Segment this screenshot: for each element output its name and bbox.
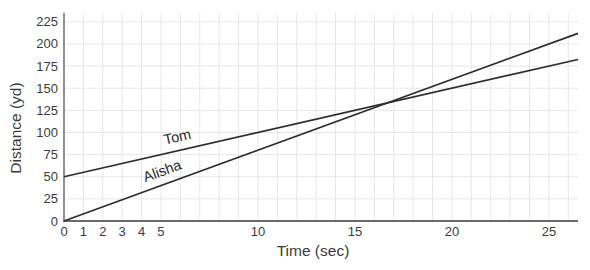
x-tick-label: 4 (138, 224, 145, 239)
chart-canvas: 012345101520250255075100125150175200225 … (0, 0, 590, 270)
tick-labels: 012345101520250255075100125150175200225 (36, 14, 556, 239)
x-tick-label: 3 (119, 224, 126, 239)
y-tick-label: 150 (36, 81, 58, 96)
y-tick-label: 125 (36, 103, 58, 118)
y-tick-label: 25 (44, 191, 58, 206)
x-tick-label: 15 (348, 224, 362, 239)
x-tick-label: 25 (542, 224, 556, 239)
y-tick-label: 225 (36, 14, 58, 29)
x-tick-label: 1 (80, 224, 87, 239)
y-tick-label: 50 (44, 169, 58, 184)
y-tick-label: 175 (36, 59, 58, 74)
y-tick-label: 100 (36, 125, 58, 140)
x-tick-label: 2 (99, 224, 106, 239)
series-label-alisha: Alisha (141, 156, 184, 185)
distance-time-chart: 012345101520250255075100125150175200225 … (0, 0, 590, 270)
x-axis-title: Time (sec) (277, 242, 350, 259)
y-tick-label: 0 (51, 214, 58, 229)
x-tick-label: 20 (445, 224, 459, 239)
grid-lines (64, 13, 578, 221)
y-tick-label: 200 (36, 36, 58, 51)
y-tick-label: 75 (44, 147, 58, 162)
x-tick-label: 10 (251, 224, 265, 239)
x-tick-label: 5 (157, 224, 164, 239)
series-label-tom: Tom (162, 126, 192, 148)
x-tick-label: 0 (60, 224, 67, 239)
y-axis-title: Distance (yd) (7, 82, 24, 173)
